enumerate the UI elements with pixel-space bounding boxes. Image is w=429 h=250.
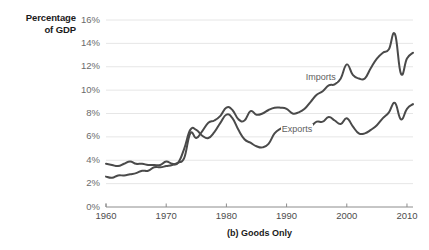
series-label-exports: Exports — [281, 124, 314, 134]
y-tick-label: 2% — [76, 177, 100, 188]
y-tick-label: 10% — [76, 84, 100, 95]
y-tick-label: 16% — [76, 14, 100, 25]
y-tick-label: 6% — [76, 130, 100, 141]
x-tick-label: 1990 — [267, 210, 307, 221]
series-line-exports — [106, 103, 413, 166]
x-tick-marks — [106, 204, 407, 208]
x-tick-label: 1980 — [206, 210, 246, 221]
y-tick-label: 4% — [76, 154, 100, 165]
x-tick-label: 1960 — [86, 210, 126, 221]
x-tick-label: 2010 — [387, 210, 427, 221]
series-line-imports — [106, 33, 413, 178]
series-lines — [106, 33, 413, 178]
x-tick-label: 2000 — [327, 210, 367, 221]
chart-figure: Percentage of GDP 16%14%12%10%8%6%4%2%0%… — [0, 0, 429, 250]
series-label-imports: Imports — [305, 72, 337, 82]
gridlines — [106, 20, 413, 184]
x-tick-label: 1970 — [146, 210, 186, 221]
y-tick-label: 8% — [76, 107, 100, 118]
y-tick-label: 14% — [76, 37, 100, 48]
figure-caption: (b) Goods Only — [106, 228, 413, 238]
y-tick-label: 12% — [76, 60, 100, 71]
